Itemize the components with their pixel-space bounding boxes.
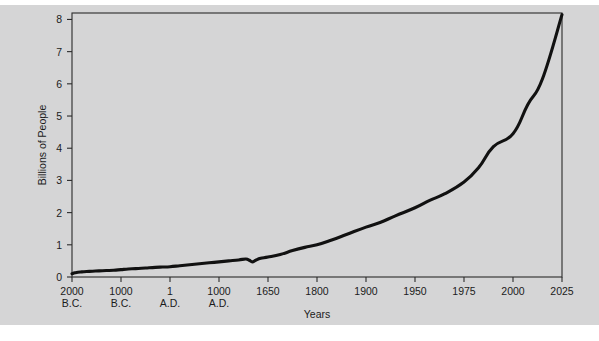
plot-frame xyxy=(72,13,562,277)
population-line-series xyxy=(72,15,562,274)
x-tick-label: 1975 xyxy=(452,285,476,297)
y-tick-label: 3 xyxy=(56,174,62,186)
x-tick-label: 1 xyxy=(167,285,173,297)
x-tick-label-era: B.C. xyxy=(62,297,82,309)
y-tick-label: 8 xyxy=(56,13,62,25)
y-axis-title: Billions of People xyxy=(36,105,48,186)
x-tick-label: 2000 xyxy=(501,285,525,297)
x-tick-label: 1650 xyxy=(256,285,280,297)
y-tick-label: 6 xyxy=(56,78,62,90)
x-tick-label: 2025 xyxy=(550,285,574,297)
y-tick-label: 4 xyxy=(56,142,62,154)
y-axis: 012345678 xyxy=(56,13,72,283)
x-tick-label-era: A.D. xyxy=(209,297,229,309)
y-tick-label: 5 xyxy=(56,110,62,122)
x-tick-label: 1800 xyxy=(305,285,329,297)
x-tick-label-era: B.C. xyxy=(111,297,131,309)
y-tick-label: 1 xyxy=(56,239,62,251)
x-tick-label: 1000 xyxy=(207,285,231,297)
x-tick-label-era: A.D. xyxy=(160,297,180,309)
chart-svg: 012345678 2000B.C.1000B.C.1A.D.1000A.D.1… xyxy=(0,5,599,325)
y-tick-label: 2 xyxy=(56,207,62,219)
x-tick-label: 1000 xyxy=(109,285,133,297)
y-tick-label: 0 xyxy=(56,271,62,283)
y-tick-label: 7 xyxy=(56,46,62,58)
x-tick-label: 2000 xyxy=(60,285,84,297)
world-population-chart: 012345678 2000B.C.1000B.C.1A.D.1000A.D.1… xyxy=(0,5,599,325)
x-tick-label: 1950 xyxy=(403,285,427,297)
x-axis: 2000B.C.1000B.C.1A.D.1000A.D.16501800190… xyxy=(60,277,574,309)
x-axis-title: Years xyxy=(304,308,330,320)
x-tick-label: 1900 xyxy=(354,285,378,297)
chart-background-panel: 012345678 2000B.C.1000B.C.1A.D.1000A.D.1… xyxy=(0,5,599,325)
